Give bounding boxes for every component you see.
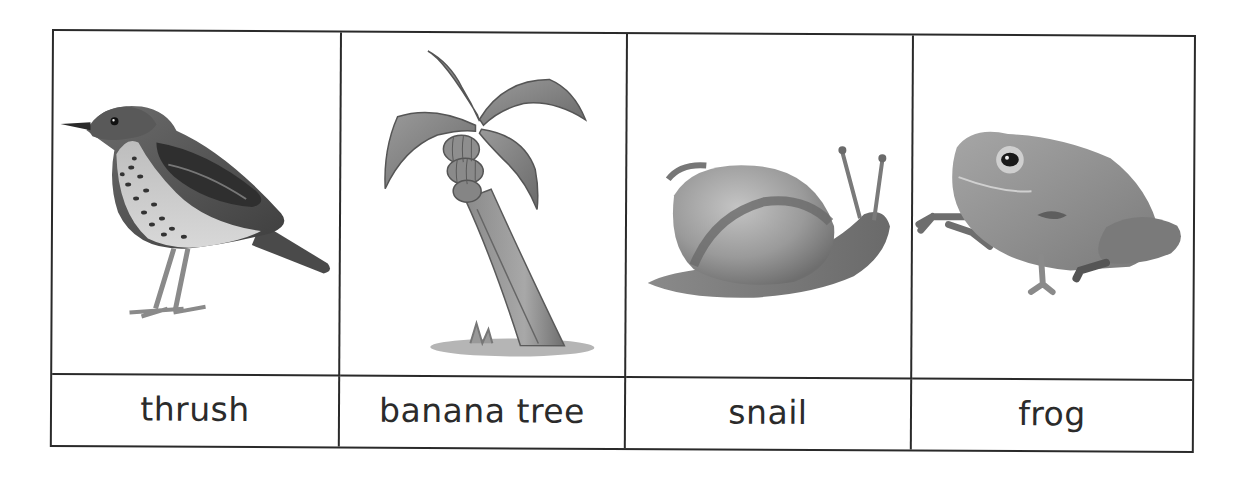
snail-icon [634,135,905,316]
cell-banana-tree-image [340,33,628,378]
label-thrush: thrush [52,375,340,447]
cell-frog-image [912,36,1194,381]
cell-thrush-image [52,31,342,377]
label-frog: frog [912,380,1192,451]
label-snail: snail [626,378,912,449]
picture-label-table: thrush banana tree snail frog [50,29,1196,453]
frog-icon [913,107,1194,308]
banana-tree-icon [352,39,614,370]
thrush-icon [55,72,336,333]
cell-snail-image [626,34,914,379]
label-banana-tree: banana tree [340,377,626,448]
